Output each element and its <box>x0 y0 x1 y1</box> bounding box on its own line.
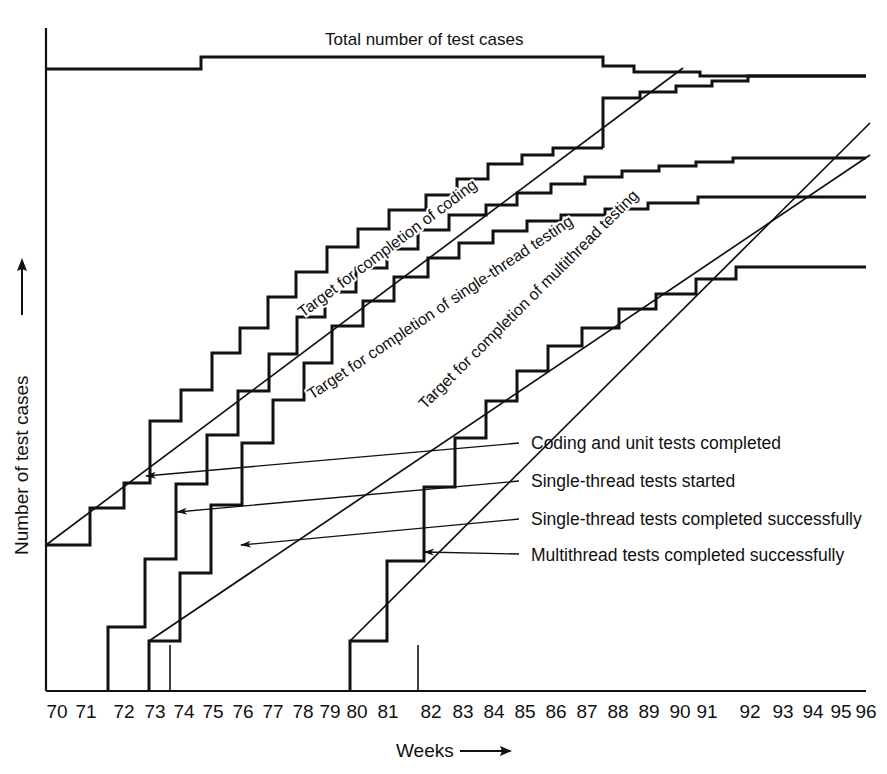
x-tick-label-87: 87 <box>576 701 597 722</box>
arrow-up-icon <box>17 258 27 315</box>
x-tick-label-81: 81 <box>377 701 398 722</box>
x-tick-label-93: 93 <box>772 701 793 722</box>
legend-item-single-thread-tests-completed-successfully: Single-thread tests completed successful… <box>531 509 862 529</box>
y-axis-title-group: Number of test cases <box>11 258 32 555</box>
x-tick-label-72: 72 <box>113 701 134 722</box>
x-axis-tick-labels: 7071727374757677787980818283848586878889… <box>46 701 876 722</box>
series-coding-and-unit-tests-completed-tail <box>603 76 866 148</box>
x-tick-label-83: 83 <box>452 701 473 722</box>
x-tick-label-76: 76 <box>232 701 253 722</box>
leader-line-single-thread-completed <box>241 519 519 545</box>
x-tick-label-73: 73 <box>144 701 165 722</box>
x-tick-label-70: 70 <box>46 701 67 722</box>
x-tick-label-96: 96 <box>855 701 876 722</box>
test-case-progress-chart: Total number of test cases Target for co… <box>0 0 887 774</box>
x-tick-label-82: 82 <box>420 701 441 722</box>
series-total-number-of-test-cases <box>46 57 866 76</box>
x-tick-label-80: 80 <box>346 701 367 722</box>
legend-item-coding-and-unit-tests-completed: Coding and unit tests completed <box>531 433 781 453</box>
legend-item-single-thread-tests-started: Single-thread tests started <box>531 471 735 491</box>
x-tick-label-86: 86 <box>545 701 566 722</box>
x-tick-label-90: 90 <box>669 701 690 722</box>
x-tick-marks <box>108 645 418 691</box>
x-tick-label-71: 71 <box>75 701 96 722</box>
x-tick-label-79: 79 <box>319 701 340 722</box>
x-axis-title: Weeks <box>396 740 454 761</box>
arrow-right-icon <box>460 746 512 756</box>
x-tick-label-84: 84 <box>483 701 505 722</box>
y-axis-title: Number of test cases <box>11 375 32 555</box>
series-coding-and-unit-tests-completed <box>46 148 603 545</box>
x-axis-title-group: Weeks <box>396 740 512 761</box>
x-tick-label-85: 85 <box>514 701 535 722</box>
x-tick-label-88: 88 <box>607 701 628 722</box>
x-tick-label-75: 75 <box>202 701 223 722</box>
x-tick-label-89: 89 <box>638 701 659 722</box>
chart-svg: Total number of test cases Target for co… <box>0 0 887 774</box>
x-tick-label-95: 95 <box>830 701 851 722</box>
total-line-label: Total number of test cases <box>325 30 523 49</box>
legend-leader-lines <box>146 443 519 554</box>
x-tick-label-91: 91 <box>696 701 717 722</box>
target-line-single-thread-testing <box>149 155 870 641</box>
x-tick-label-74: 74 <box>173 701 195 722</box>
x-tick-label-78: 78 <box>292 701 313 722</box>
x-tick-label-94: 94 <box>802 701 824 722</box>
x-tick-label-92: 92 <box>739 701 760 722</box>
target-labels: Target for completion of coding Target f… <box>295 176 642 412</box>
leader-line-coding <box>146 443 519 476</box>
legend: Coding and unit tests completed Single-t… <box>531 433 862 565</box>
x-tick-label-77: 77 <box>262 701 283 722</box>
legend-item-multithread-tests-completed-successfully: Multithread tests completed successfully <box>531 545 844 565</box>
